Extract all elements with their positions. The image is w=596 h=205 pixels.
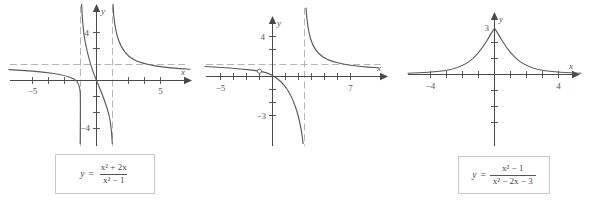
curve-left-branch-1 <box>9 70 80 146</box>
figure-sheet: −5 5 4 −4 x y y = x² + 2x x² − 1 <box>0 0 596 205</box>
x-tick-label-neg5-2: −5 <box>216 83 226 93</box>
x-tick-label-neg4-3: −4 <box>426 81 436 91</box>
y-tick-label-neg4-1: −4 <box>80 123 90 133</box>
y-axis-label-1: y <box>100 6 105 16</box>
formula-box-1: y = x² + 2x x² − 1 <box>55 154 155 194</box>
y-axis-arrow-1 <box>93 4 100 12</box>
y-tick-label-4-2: 4 <box>261 32 266 42</box>
formula-lhs-1: y = <box>80 169 95 179</box>
formula-fraction-1: x² + 2x x² − 1 <box>98 163 130 185</box>
y-tick-label-neg3-2: −3 <box>256 111 266 121</box>
curve-right-branch-2 <box>306 8 378 68</box>
formula-1: y = x² + 2x x² − 1 <box>80 163 129 185</box>
x-axis-arrow-1 <box>184 77 192 84</box>
y-tick-label-3-3: 3 <box>485 23 490 33</box>
graph-panel-2: −5 7 4 −3 x y y = x² − 1 x² − 2x − 3 <box>200 0 400 205</box>
x-tick-label-7-2: 7 <box>348 83 353 93</box>
curve-right-branch-1 <box>113 4 190 69</box>
graph-panel-3: −4 4 3 x y y = 3 x² + 1 <box>400 0 596 205</box>
x-axis-label-1: x <box>180 67 185 77</box>
graph-panel-1: −5 5 4 −4 x y y = x² + 2x x² − 1 <box>0 0 200 205</box>
x-tick-label-5-1: 5 <box>158 86 163 96</box>
y-axis-arrow-3 <box>491 12 498 20</box>
x-tick-label-neg5-1: −5 <box>28 86 38 96</box>
hole-marker-2 <box>257 69 261 73</box>
y-axis-arrow-2 <box>269 16 276 24</box>
curve-group-1 <box>9 4 190 146</box>
y-axis-label-3: y <box>498 14 503 24</box>
formula-denominator-1: x² − 1 <box>100 174 127 185</box>
y-axis-label-2: y <box>276 18 281 28</box>
x-axis-label-2: x <box>376 63 381 73</box>
x-axis-label-3: x <box>568 61 573 71</box>
x-axis-arrow-3 <box>572 71 580 78</box>
x-tick-label-4-3: 4 <box>556 81 561 91</box>
curve-left-branch-2 <box>205 67 303 147</box>
plot-2: −5 7 4 −3 x y <box>200 0 400 150</box>
formula-numerator-1: x² + 2x <box>98 163 130 173</box>
plot-1: −5 5 4 −4 x y <box>0 0 200 150</box>
x-axis-arrow-2 <box>380 73 388 80</box>
plot-3: −4 4 3 x y <box>400 0 596 150</box>
y-tick-label-4-1: 4 <box>85 28 90 38</box>
